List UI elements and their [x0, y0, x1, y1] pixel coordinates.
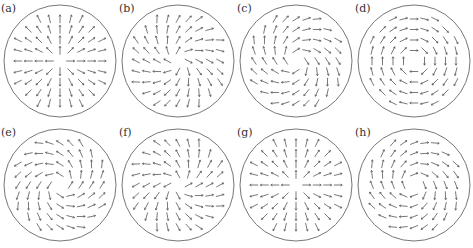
boundary-circle [240, 5, 352, 117]
panel-c: (c) [236, 0, 354, 124]
vector-field-plot [118, 0, 236, 124]
boundary-circle [358, 129, 470, 241]
panel-d: (d) [354, 0, 472, 124]
boundary-circle [122, 129, 234, 241]
panel-label: (e) [1, 126, 16, 139]
vector-field-plot [354, 0, 472, 124]
panel-label: (b) [119, 2, 135, 15]
panel-label: (h) [355, 126, 371, 139]
panel-f: (f) [118, 124, 236, 248]
panel-label: (f) [119, 126, 132, 139]
panel-label: (g) [237, 126, 253, 139]
panel-label: (d) [355, 2, 371, 15]
panel-a: (a) [0, 0, 118, 124]
boundary-circle [122, 5, 234, 117]
vector-field-plot [236, 0, 354, 124]
vector-field-plot [0, 0, 118, 124]
panel-label: (c) [237, 2, 252, 15]
boundary-circle [358, 5, 470, 117]
panel-h: (h) [354, 124, 472, 248]
panel-g: (g) [236, 124, 354, 248]
vector-field-plot [0, 124, 118, 248]
vector-field-plot [236, 124, 354, 248]
panel-e: (e) [0, 124, 118, 248]
panel-label: (a) [1, 2, 16, 15]
vector-field-plot [118, 124, 236, 248]
panel-b: (b) [118, 0, 236, 124]
boundary-circle [4, 129, 116, 241]
vector-field-plot [354, 124, 472, 248]
